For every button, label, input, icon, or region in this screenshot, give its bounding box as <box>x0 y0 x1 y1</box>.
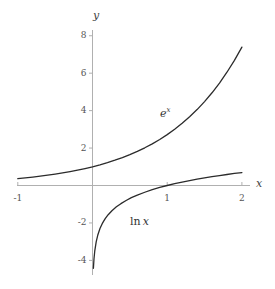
y-axis-ticks <box>89 36 93 261</box>
exp-curve-label: ex <box>160 107 170 119</box>
y-tick-label: 6 <box>67 69 87 78</box>
y-tick-label: 8 <box>67 31 87 40</box>
y-tick-label: 2 <box>67 144 87 153</box>
ln-curve <box>93 173 242 269</box>
x-axis-label: x <box>256 178 262 189</box>
y-axis-label: y <box>93 10 99 21</box>
y-tick-label: -4 <box>67 256 87 265</box>
x-tick-label: 2 <box>234 194 250 203</box>
x-axis-ticks <box>18 182 242 186</box>
plot-canvas <box>0 0 275 289</box>
ln-curve-label: ln x <box>130 216 149 227</box>
data-curves <box>18 47 242 268</box>
exp-curve <box>18 47 242 178</box>
x-tick-label: 1 <box>159 194 175 203</box>
y-tick-label: 4 <box>67 106 87 115</box>
x-tick-label: -1 <box>10 194 26 203</box>
y-tick-label: -2 <box>67 218 87 227</box>
chart-figure: y x -112 -4-22468 ex ln x <box>0 0 275 289</box>
